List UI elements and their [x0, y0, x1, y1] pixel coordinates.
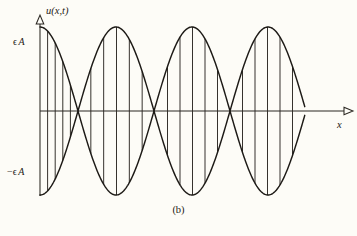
epsilon-symbol-negative: −ϵ	[7, 166, 17, 177]
y-tick-label-positive: ϵA	[13, 37, 25, 47]
amplitude-symbol-negative: A	[17, 166, 25, 177]
figure-container: u(x,t) x ϵA −ϵA (b)	[0, 0, 357, 236]
y-axis-arrowhead	[36, 15, 44, 24]
y-tick-label-negative: −ϵA	[7, 167, 24, 177]
standing-wave-plot	[0, 0, 357, 236]
figure-caption: (b)	[0, 204, 357, 215]
amplitude-symbol-positive: A	[17, 36, 25, 47]
x-axis-arrowhead	[344, 107, 353, 115]
y-axis-label: u(x,t)	[46, 6, 68, 17]
axes-group	[36, 15, 353, 196]
x-axis-label: x	[337, 120, 342, 131]
